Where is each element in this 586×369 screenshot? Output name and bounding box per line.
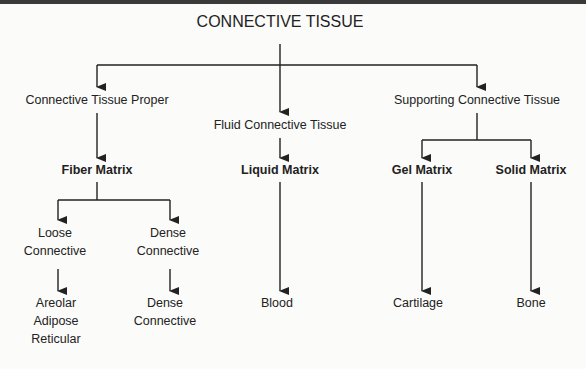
node-loose-connective: Loose Connective [24,224,87,260]
node-dense-connective: Dense Connective [137,224,200,260]
node-label-line: Connective [134,312,197,330]
node-connective-tissue-proper: Connective Tissue Proper [25,91,168,109]
node-gel-matrix: Gel Matrix [392,161,452,179]
node-liquid-matrix: Liquid Matrix [241,161,319,179]
leaf-adipose: Adipose [31,312,80,330]
leaf-areolar: Areolar [31,294,80,312]
node-label-line: Connective [137,242,200,260]
leaf-dense-connective: Dense Connective [134,294,197,330]
node-solid-matrix: Solid Matrix [496,161,567,179]
connector-lines [0,0,586,369]
leaf-cartilage: Cartilage [393,294,443,312]
root-node-title: CONNECTIVE TISSUE [197,13,364,31]
node-label-line: Connective [24,242,87,260]
node-label-line: Dense [134,294,197,312]
node-fiber-matrix: Fiber Matrix [62,161,133,179]
node-label-line: Loose [24,224,87,242]
node-supporting-connective-tissue: Supporting Connective Tissue [394,91,560,109]
leaf-bone: Bone [516,294,545,312]
node-fluid-connective-tissue: Fluid Connective Tissue [214,116,347,134]
leaf-loose-types: Areolar Adipose Reticular [31,294,80,348]
leaf-reticular: Reticular [31,330,80,348]
node-label-line: Dense [137,224,200,242]
leaf-blood: Blood [261,294,293,312]
